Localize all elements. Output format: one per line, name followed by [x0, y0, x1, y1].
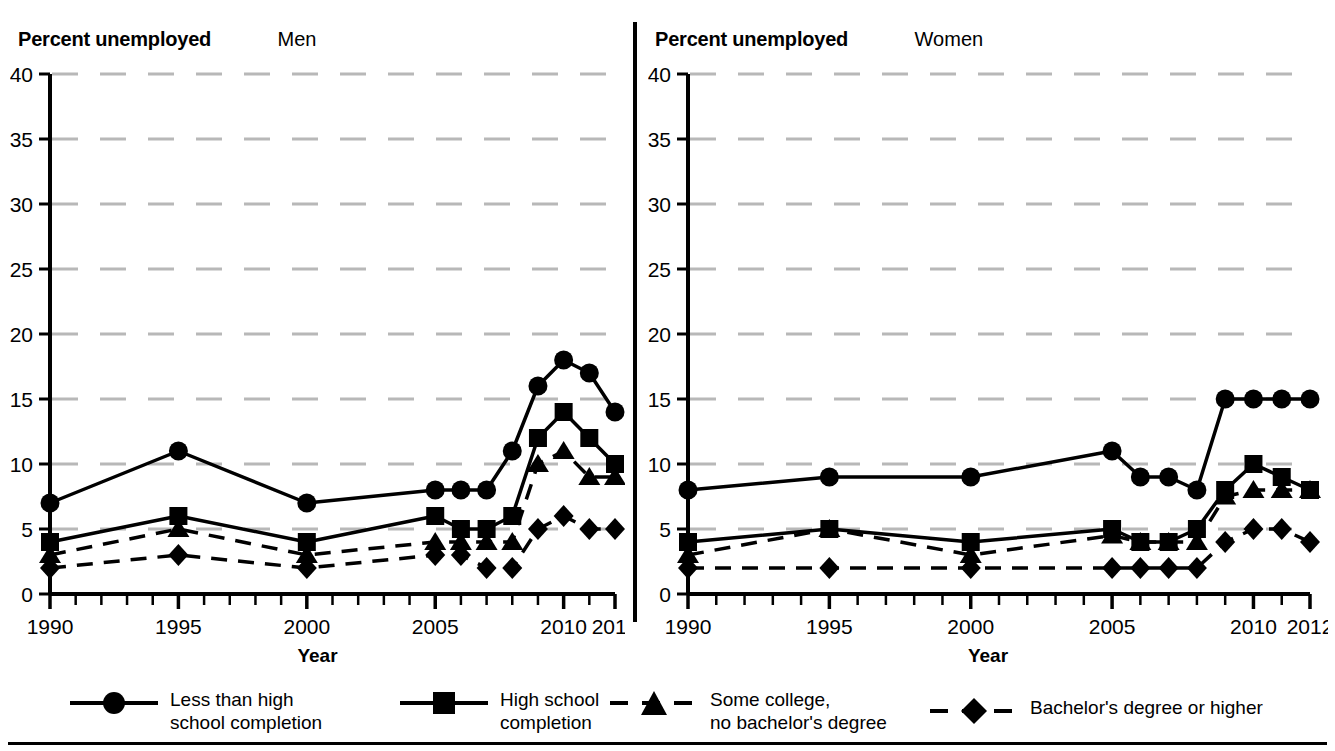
bottom-rule: [8, 742, 1327, 745]
triangle-marker-icon: [608, 690, 700, 716]
data-point-circle: [41, 494, 60, 513]
y-tick-label: 40: [10, 63, 33, 86]
data-point-square: [580, 429, 598, 447]
data-point-diamond: [579, 518, 599, 540]
data-point-diamond: [819, 557, 839, 579]
x-tick-label: 2005: [412, 615, 459, 638]
x-tick-label: 1990: [665, 615, 712, 638]
data-point-square: [426, 507, 444, 525]
data-point-diamond: [1215, 531, 1235, 553]
x-tick-label: 2012: [592, 615, 625, 638]
data-point-circle: [679, 481, 698, 500]
y-tick-label: 10: [10, 453, 33, 476]
data-point-diamond: [528, 518, 548, 540]
x-tick-label: 2005: [1089, 615, 1136, 638]
y-axis-title-women: Percent unemployed: [655, 28, 848, 50]
data-point-square: [1244, 455, 1262, 473]
data-point-circle: [1216, 390, 1235, 409]
diamond-marker-icon: [928, 698, 1020, 724]
data-point-diamond: [1159, 557, 1179, 579]
y-tick-label: 5: [21, 518, 33, 541]
legend-label: Less than high school completion: [170, 688, 322, 734]
chart-men: 0510152025303540199019952000200520102012…: [10, 60, 625, 640]
legend-label: Bachelor's degree or higher: [1030, 696, 1263, 719]
y-tick-label: 15: [10, 388, 33, 411]
chart-legend: Less than high school completion High sc…: [0, 682, 1335, 738]
data-point-square: [529, 429, 547, 447]
circle-marker-icon: [68, 690, 160, 716]
data-point-circle: [554, 351, 573, 370]
panel-title-women: Women: [915, 28, 984, 50]
data-point-diamond: [605, 518, 625, 540]
data-point-circle: [297, 494, 316, 513]
x-tick-label: 2000: [283, 615, 330, 638]
data-point-circle: [606, 403, 625, 422]
data-point-circle: [1159, 468, 1178, 487]
data-point-circle: [1103, 442, 1122, 461]
plot-area-women: 0510152025303540199019952000200520102012: [648, 60, 1328, 640]
x-tick-label: 2010: [1230, 615, 1277, 638]
y-tick-label: 35: [648, 128, 671, 151]
panel-header-men: Percent unemployed Men: [18, 28, 316, 52]
y-tick-label: 20: [10, 323, 33, 346]
x-tick-label: 2010: [540, 615, 587, 638]
y-tick-label: 15: [648, 388, 671, 411]
data-point-diamond: [1300, 531, 1320, 553]
data-point-circle: [528, 377, 547, 396]
data-point-circle: [1244, 390, 1263, 409]
data-point-diamond: [1243, 518, 1263, 540]
data-point-circle: [426, 481, 445, 500]
y-tick-label: 10: [648, 453, 671, 476]
data-point-diamond: [1102, 557, 1122, 579]
y-tick-label: 0: [21, 583, 33, 606]
y-tick-label: 20: [648, 323, 671, 346]
y-tick-label: 30: [10, 193, 33, 216]
figure-root: Percent unemployed Men Percent unemploye…: [0, 0, 1335, 751]
data-point-diamond: [1272, 518, 1292, 540]
panel-title-men: Men: [278, 28, 317, 50]
y-tick-label: 0: [659, 583, 671, 606]
data-point-circle: [1131, 468, 1150, 487]
legend-item-bachelors: Bachelor's degree or higher: [928, 696, 1263, 724]
y-tick-label: 5: [659, 518, 671, 541]
y-tick-label: 40: [648, 63, 671, 86]
data-point-diamond: [502, 557, 522, 579]
x-tick-label: 1995: [155, 615, 202, 638]
data-point-diamond: [1130, 557, 1150, 579]
series-line-circle: [688, 399, 1310, 490]
data-point-triangle: [553, 441, 575, 459]
data-point-circle: [503, 442, 522, 461]
data-point-diamond: [477, 557, 497, 579]
x-tick-label: 2000: [947, 615, 994, 638]
data-point-circle: [1272, 390, 1291, 409]
data-point-circle: [169, 442, 188, 461]
y-tick-label: 25: [10, 258, 33, 281]
data-point-circle: [477, 481, 496, 500]
data-point-circle: [820, 468, 839, 487]
y-axis-title-men: Percent unemployed: [18, 28, 211, 50]
x-axis-label-women: Year: [648, 645, 1328, 667]
panel-divider: [633, 22, 637, 622]
data-point-circle: [961, 468, 980, 487]
legend-item-less-than-high-school: Less than high school completion: [68, 688, 322, 734]
plot-area-men: 0510152025303540199019952000200520102012: [10, 60, 625, 640]
data-point-circle: [1301, 390, 1320, 409]
data-point-circle: [451, 481, 470, 500]
y-tick-label: 30: [648, 193, 671, 216]
legend-item-some-college: Some college, no bachelor's degree: [608, 688, 887, 734]
data-point-circle: [1187, 481, 1206, 500]
legend-label: High school completion: [500, 688, 599, 734]
panel-header-women: Percent unemployed Women: [655, 28, 983, 52]
y-tick-label: 25: [648, 258, 671, 281]
y-tick-label: 35: [10, 128, 33, 151]
data-point-diamond: [168, 544, 188, 566]
chart-women: 0510152025303540199019952000200520102012…: [648, 60, 1328, 640]
legend-item-high-school: High school completion: [398, 688, 599, 734]
data-point-diamond: [554, 505, 574, 527]
legend-label: Some college, no bachelor's degree: [710, 688, 887, 734]
x-tick-label: 1995: [806, 615, 853, 638]
square-marker-icon: [398, 690, 490, 716]
data-point-circle: [580, 364, 599, 383]
data-point-square: [555, 403, 573, 421]
x-axis-label-men: Year: [10, 645, 625, 667]
